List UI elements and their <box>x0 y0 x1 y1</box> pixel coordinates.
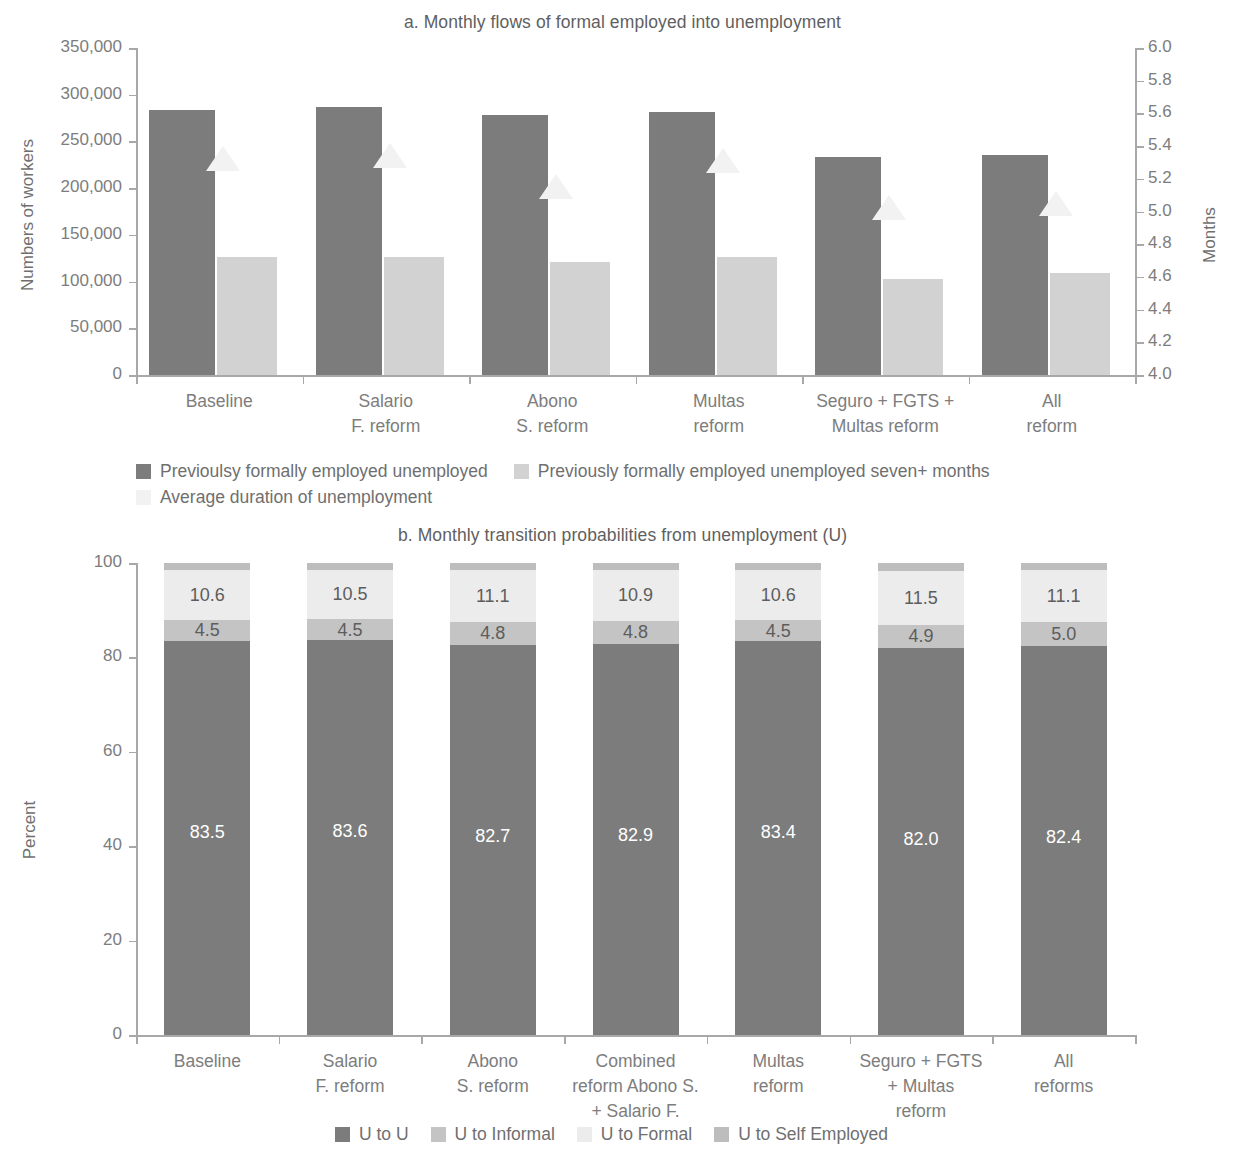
panel-a-bar-seven-plus-months <box>550 262 610 375</box>
panel-a-category-label: Baseline <box>126 389 313 414</box>
legend-swatch-icon <box>714 1127 729 1142</box>
panel-a-y2-tick-label: 6.0 <box>1148 37 1208 57</box>
legend-swatch-icon <box>577 1127 592 1142</box>
panel-a-y2-tick-label: 4.6 <box>1148 266 1208 286</box>
panel-b-category-label: Multas reform <box>695 1049 862 1099</box>
panel-b-title: b. Monthly transition probabilities from… <box>0 525 1245 546</box>
panel-b-segment-2: 4.5 <box>307 619 393 640</box>
panel-b-segment-4 <box>1021 563 1107 570</box>
panel-a-category-label: Multas reform <box>626 389 813 439</box>
panel-b-y-tick-label: 100 <box>0 552 122 572</box>
panel-b-segment-value-label: 4.5 <box>338 621 363 639</box>
panel-b-segment-1: 82.9 <box>593 644 679 1035</box>
panel-a-bar-previously-employed <box>982 155 1048 375</box>
panel-b-legend-item[interactable]: U to Informal <box>431 1124 555 1145</box>
panel-b-segment-value-label: 83.5 <box>190 823 225 841</box>
panel-b-segment-2: 5.0 <box>1021 622 1107 646</box>
panel-a-y2-tick-label: 4.0 <box>1148 364 1208 384</box>
panel-b-segment-value-label: 4.8 <box>623 623 648 641</box>
panel-a-monthly-flows: a. Monthly flows of formal employed into… <box>0 0 1245 515</box>
legend-swatch-icon <box>335 1127 350 1142</box>
panel-a-marker-average-duration <box>539 174 573 199</box>
panel-a-legend-item[interactable]: Average duration of unemployment <box>136 487 432 508</box>
panel-b-transition-probabilities: b. Monthly transition probabilities from… <box>0 515 1245 1159</box>
panel-b-segment-1: 82.4 <box>1021 646 1107 1035</box>
panel-a-bar-seven-plus-months <box>384 257 444 375</box>
panel-b-legend-item[interactable]: U to Self Employed <box>714 1124 888 1145</box>
panel-b-segment-3: 11.1 <box>450 570 536 622</box>
panel-b-segment-2: 4.5 <box>164 620 250 641</box>
panel-b-segment-3: 10.5 <box>307 570 393 620</box>
panel-a-y2-tick-label: 5.2 <box>1148 168 1208 188</box>
panel-b-segment-value-label: 83.6 <box>333 822 368 840</box>
panel-b-segment-value-label: 10.6 <box>190 586 225 604</box>
panel-b-segment-4 <box>735 563 821 570</box>
panel-b-segment-3: 11.5 <box>878 571 964 625</box>
panel-a-category-label: Salario F. reform <box>293 389 480 439</box>
panel-b-segment-value-label: 4.5 <box>766 622 791 640</box>
panel-a-marker-average-duration <box>373 143 407 168</box>
panel-b-y-tick-label: 0 <box>0 1024 122 1044</box>
panel-a-marker-average-duration <box>706 148 740 173</box>
panel-b-segment-3: 10.6 <box>735 570 821 620</box>
panel-b-y-tick-label: 80 <box>0 646 122 666</box>
panel-a-y2-tick-label: 5.8 <box>1148 70 1208 90</box>
panel-b-category-label: Abono S. reform <box>409 1049 576 1099</box>
panel-a-category-label: Abono S. reform <box>459 389 646 439</box>
panel-a-y2-tick-label: 4.2 <box>1148 331 1208 351</box>
panel-b-segment-value-label: 82.0 <box>903 830 938 848</box>
panel-b-legend-label: U to U <box>359 1124 409 1145</box>
panel-b-segment-4 <box>593 563 679 570</box>
panel-b-segment-3: 10.6 <box>164 570 250 620</box>
panel-b-segment-1: 83.4 <box>735 641 821 1035</box>
panel-a-legend-item[interactable]: Previously formally employed unemployed … <box>514 461 990 482</box>
panel-b-stacked-bar: 82.94.810.9 <box>593 563 679 1035</box>
panel-b-segment-3: 11.1 <box>1021 570 1107 622</box>
panel-b-segment-value-label: 5.0 <box>1051 625 1076 643</box>
panel-b-category-label: Combined reform Abono S. + Salario F. <box>552 1049 719 1124</box>
panel-a-marker-average-duration <box>872 195 906 220</box>
panel-b-stacked-bar: 82.04.911.5 <box>878 563 964 1035</box>
panel-b-legend-item[interactable]: U to U <box>335 1124 409 1145</box>
panel-b-plot-area: 02040608010083.54.510.6Baseline83.64.510… <box>0 553 1245 1033</box>
panel-b-segment-4 <box>307 563 393 570</box>
panel-b-segment-1: 82.0 <box>878 648 964 1035</box>
panel-b-segment-value-label: 10.9 <box>618 586 653 604</box>
panel-b-segment-value-label: 11.5 <box>904 589 938 607</box>
legend-swatch-icon <box>136 464 151 479</box>
panel-b-stacked-bar: 83.44.510.6 <box>735 563 821 1035</box>
panel-a-y2-axis-title: Months <box>1200 185 1220 285</box>
panel-b-segment-2: 4.8 <box>593 621 679 644</box>
panel-b-y-tick-label: 40 <box>0 835 122 855</box>
panel-b-segment-value-label: 4.5 <box>195 621 220 639</box>
panel-b-segment-3: 10.9 <box>593 570 679 621</box>
panel-b-legend-label: U to Self Employed <box>738 1124 888 1145</box>
panel-b-segment-value-label: 10.6 <box>761 586 796 604</box>
panel-a-legend: Previoulsy formally employed unemployedP… <box>0 458 1245 510</box>
panel-a-bar-seven-plus-months <box>883 279 943 375</box>
panel-a-y2-tick-label: 4.4 <box>1148 299 1208 319</box>
panel-a-legend-item[interactable]: Previoulsy formally employed unemployed <box>136 461 488 482</box>
panel-a-legend-label: Previously formally employed unemployed … <box>538 461 990 482</box>
panel-a-y2-tick-label: 5.0 <box>1148 201 1208 221</box>
panel-b-segment-2: 4.8 <box>450 622 536 645</box>
panel-b-segment-value-label: 10.5 <box>333 585 368 603</box>
panel-b-segment-value-label: 82.9 <box>618 826 653 844</box>
panel-a-y-tick-label: 300,000 <box>0 84 122 104</box>
panel-a-bar-previously-employed <box>815 157 881 375</box>
panel-b-segment-1: 82.7 <box>450 645 536 1035</box>
panel-b-segment-1: 83.6 <box>307 640 393 1035</box>
panel-a-marker-average-duration <box>1039 191 1073 216</box>
legend-swatch-icon <box>431 1127 446 1142</box>
panel-b-stacked-bar: 83.54.510.6 <box>164 563 250 1035</box>
panel-a-bar-seven-plus-months <box>1050 273 1110 375</box>
panel-b-y-axis-title: Percent <box>20 765 40 895</box>
panel-a-category-label: Seguro + FGTS + Multas reform <box>792 389 979 439</box>
panel-b-legend-label: U to Formal <box>601 1124 692 1145</box>
panel-b-legend-item[interactable]: U to Formal <box>577 1124 692 1145</box>
legend-swatch-icon <box>514 464 529 479</box>
panel-a-y-tick-label: 50,000 <box>0 317 122 337</box>
panel-b-segment-value-label: 11.1 <box>1047 587 1081 605</box>
panel-b-category-label: Salario F. reform <box>267 1049 434 1099</box>
panel-b-segment-value-label: 83.4 <box>761 823 796 841</box>
